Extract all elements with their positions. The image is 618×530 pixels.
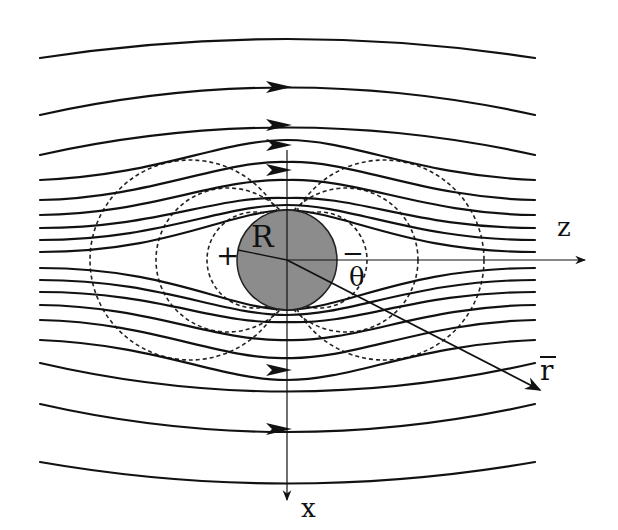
streamline xyxy=(40,39,535,58)
x-axis-label: x xyxy=(301,495,316,521)
positive-pole-label: + xyxy=(216,242,239,270)
position-vector-label: r xyxy=(540,357,553,385)
negative-pole-label: − xyxy=(342,240,364,266)
arrow-right-icon xyxy=(266,423,292,435)
field-lines-diagram xyxy=(0,0,618,530)
radius-label: R xyxy=(251,222,274,252)
arrow-right-icon xyxy=(266,364,292,376)
streamline xyxy=(40,88,535,116)
z-axis-label: z xyxy=(557,214,571,240)
arrow-right-icon xyxy=(266,164,292,176)
arrow-right-icon xyxy=(266,119,292,131)
r-vector xyxy=(287,260,540,390)
